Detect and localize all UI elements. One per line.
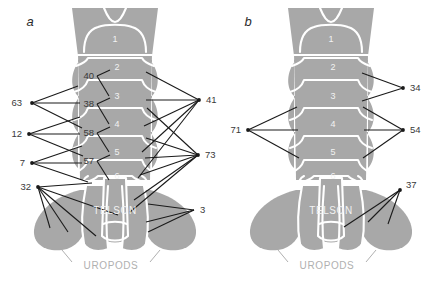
panel-a-segment-4: 4 xyxy=(114,119,119,129)
anatomical-figure-svg: a 1 2 3 4 5 6 TELSON UROPODS 63 12 7 32 … xyxy=(0,0,435,282)
dot-b-71 xyxy=(246,128,250,132)
dot-a-73 xyxy=(196,153,200,157)
panel-a-segment-6: 6 xyxy=(114,171,119,181)
panel-b-telson-label: TELSON xyxy=(309,205,353,216)
callout-a-3: 3 xyxy=(200,204,205,215)
dot-b-37 xyxy=(398,188,402,192)
panel-b-segment-4: 4 xyxy=(330,119,335,129)
dot-a-63 xyxy=(30,101,34,105)
dot-b-54 xyxy=(401,128,405,132)
callout-a-40: 40 xyxy=(83,70,94,81)
panel-a-letter: a xyxy=(26,14,33,29)
panel-a-segment-5: 5 xyxy=(114,147,119,157)
callout-b-37: 37 xyxy=(406,179,417,190)
dot-a-7 xyxy=(30,161,34,165)
callout-a-58: 58 xyxy=(83,127,94,138)
callout-a-73: 73 xyxy=(205,149,216,160)
dot-a-12 xyxy=(27,132,31,136)
dot-a-41 xyxy=(197,98,201,102)
dot-b-34 xyxy=(401,86,405,90)
figure-container: a 1 2 3 4 5 6 TELSON UROPODS 63 12 7 32 … xyxy=(0,0,435,282)
panel-b-segment-6: 6 xyxy=(330,171,335,181)
callout-a-57: 57 xyxy=(83,155,94,166)
dot-a-32 xyxy=(36,185,40,189)
callout-a-38: 38 xyxy=(83,98,94,109)
panel-b-segment-3: 3 xyxy=(330,91,335,101)
callout-a-7: 7 xyxy=(20,157,25,168)
callout-a-41: 41 xyxy=(206,94,217,105)
panel-b-uropods-label: UROPODS xyxy=(300,260,355,271)
panel-a-segment-1: 1 xyxy=(112,34,117,44)
callout-b-71: 71 xyxy=(230,124,241,135)
panel-b-segment-2: 2 xyxy=(330,62,335,72)
callout-a-63: 63 xyxy=(11,97,22,108)
panel-a-segment-2: 2 xyxy=(114,62,119,72)
callout-b-54: 54 xyxy=(410,124,421,135)
panel-a-segment-3: 3 xyxy=(114,91,119,101)
callout-a-12: 12 xyxy=(11,128,22,139)
panel-b-letter: b xyxy=(244,14,251,29)
callout-a-32: 32 xyxy=(20,181,31,192)
panel-a-uropods-label: UROPODS xyxy=(84,260,139,271)
panel-a-telson-label: TELSON xyxy=(93,205,137,216)
panel-b-segment-1: 1 xyxy=(328,34,333,44)
callout-b-34: 34 xyxy=(410,82,421,93)
panel-b-segment-5: 5 xyxy=(330,147,335,157)
